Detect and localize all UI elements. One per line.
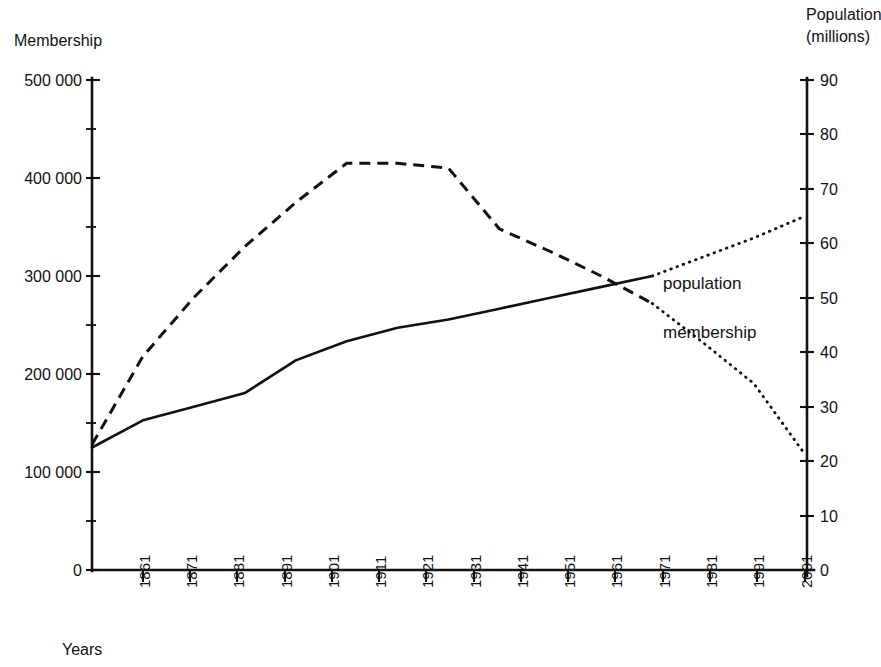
population-series-line — [92, 276, 652, 448]
y-tick-label-100000: 100 000 — [24, 464, 82, 481]
population-projection-line — [652, 216, 805, 276]
x-tick-label-1961: 1961 — [608, 555, 625, 588]
x-tick-label-1861: 1861 — [136, 555, 153, 588]
x-axis-title: Years — [62, 641, 102, 658]
x-tick-label-1881: 1881 — [230, 555, 247, 588]
y2-tick-label-20: 20 — [820, 453, 838, 470]
x-tick-label-1871: 1871 — [183, 555, 200, 588]
y-tick-label-400000: 400 000 — [24, 170, 82, 187]
x-tick-label-2001: 2001 — [798, 555, 815, 588]
y-tick-label-500000: 500 000 — [24, 72, 82, 89]
data-series-group — [92, 163, 805, 454]
y2-tick-label-10: 10 — [820, 508, 838, 525]
y-tick-label-0: 0 — [73, 562, 82, 579]
x-tick-label-1951: 1951 — [561, 555, 578, 588]
membership-series-label: membership — [663, 323, 757, 342]
y2-tick-label-0: 0 — [820, 562, 829, 579]
x-tick-label-1941: 1941 — [514, 555, 531, 588]
y2-tick-label-40: 40 — [820, 344, 838, 361]
y2-tick-label-50: 50 — [820, 290, 838, 307]
x-tick-label-1911: 1911 — [372, 556, 389, 588]
population-series-label: population — [663, 274, 741, 293]
y2-tick-label-80: 80 — [820, 126, 838, 143]
right-y-axis: 90 80 70 60 50 40 30 20 10 0 — [800, 72, 838, 579]
x-tick-label-1971: 1971 — [656, 555, 673, 588]
y2-axis-title-line1: Population — [806, 6, 881, 23]
y-tick-label-300000: 300 000 — [24, 268, 82, 285]
membership-population-line-chart: Membership Population (millions) Years 5… — [0, 0, 881, 667]
x-axis: 1861 1871 1881 1891 1901 1911 1921 1931 … — [92, 555, 815, 588]
x-tick-label-1931: 1931 — [467, 555, 484, 588]
y2-tick-label-60: 60 — [820, 235, 838, 252]
y2-tick-label-70: 70 — [820, 181, 838, 198]
x-tick-label-1991: 1991 — [750, 555, 767, 588]
y2-tick-label-30: 30 — [820, 399, 838, 416]
y-tick-label-200000: 200 000 — [24, 366, 82, 383]
x-tick-label-1981: 1981 — [703, 555, 720, 588]
left-y-axis: 500 000 400 000 300 000 200 000 100 000 … — [24, 72, 100, 579]
x-tick-label-1891: 1891 — [278, 555, 295, 588]
x-tick-label-1901: 1901 — [325, 555, 342, 588]
y-axis-title: Membership — [14, 32, 102, 49]
x-tick-label-1921: 1921 — [419, 555, 436, 588]
chart-root: Membership Population (millions) Years 5… — [0, 0, 881, 667]
y2-tick-label-90: 90 — [820, 72, 838, 89]
membership-series-line — [92, 163, 652, 444]
y2-axis-title-line2: (millions) — [806, 28, 870, 45]
